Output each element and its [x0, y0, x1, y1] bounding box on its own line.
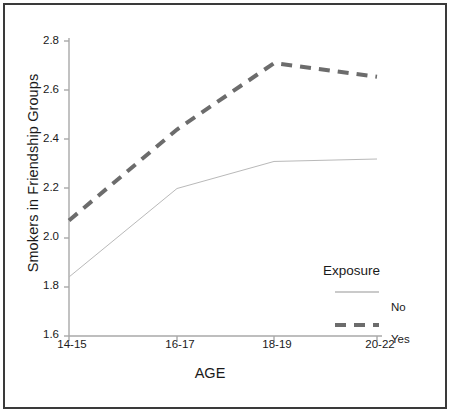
- series-line-no: [69, 159, 377, 277]
- legend-label-yes: Yes: [391, 333, 410, 345]
- y-tick-label-2-4: 2.4: [25, 132, 59, 144]
- chart-frame: Smokers in Friendship Groups 2.8 2.6 2.4…: [3, 3, 447, 409]
- line-chart-svg: [5, 5, 449, 411]
- x-tick-label-16-17: 16-17: [145, 338, 215, 350]
- y-tick-label-2-6: 2.6: [25, 83, 59, 95]
- legend-label-no: No: [391, 301, 406, 313]
- x-tick-label-14-15: 14-15: [37, 338, 107, 350]
- y-tick-marks: [64, 41, 69, 336]
- y-tick-label-2-2: 2.2: [25, 181, 59, 193]
- plot-area: Smokers in Friendship Groups 2.8 2.6 2.4…: [5, 5, 445, 407]
- legend-swatch-no: [335, 289, 379, 295]
- legend-swatch-yes: [335, 321, 379, 329]
- series-line-yes: [69, 63, 377, 220]
- x-tick-label-18-19: 18-19: [242, 338, 312, 350]
- x-axis-title: AGE: [5, 365, 415, 381]
- y-tick-label-2-8: 2.8: [25, 34, 59, 46]
- legend-title: Exposure: [323, 263, 380, 278]
- x-tick-marks: [69, 336, 377, 341]
- y-tick-label-1-8: 1.8: [25, 279, 59, 291]
- y-tick-label-2-0: 2.0: [25, 230, 59, 242]
